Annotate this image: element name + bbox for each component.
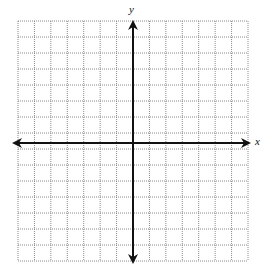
y-axis-label: y — [129, 4, 134, 15]
coordinate-plane — [0, 0, 269, 275]
x-axis-label: x — [255, 136, 260, 147]
